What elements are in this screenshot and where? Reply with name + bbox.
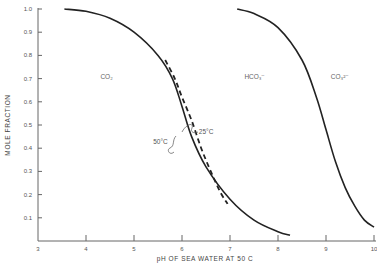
- x-axis-title: pH OF SEA WATER AT 50 C: [157, 255, 254, 263]
- x-ticks: 345678910: [36, 235, 377, 252]
- species-region-label: CO₂: [100, 73, 113, 80]
- x-tick-label: 9: [324, 246, 328, 252]
- species-region-label: CO₃²⁻: [331, 73, 350, 80]
- y-tick-label: 0.8: [24, 52, 33, 58]
- y-axis-title: MOLE FRACTION: [4, 94, 11, 155]
- y-tick-label: 0.3: [24, 168, 33, 174]
- y-tick-label: 0.5: [24, 122, 33, 128]
- x-tick-label: 5: [132, 246, 136, 252]
- y-tick-label: 0.7: [24, 76, 33, 82]
- x-tick-label: 7: [228, 246, 232, 252]
- series-group: [64, 9, 374, 235]
- species-region-label: HCO₃⁻: [244, 73, 265, 80]
- x-tick-label: 4: [84, 246, 88, 252]
- temperature-label: 50°C: [153, 138, 168, 145]
- temperature-label: 25°C: [199, 128, 214, 135]
- y-tick-label: 0.1: [24, 215, 33, 221]
- series-line-2: [237, 9, 374, 227]
- x-tick-label: 3: [36, 246, 40, 252]
- carbonate-speciation-chart: 345678910 0.10.20.30.40.50.60.70.80.91.0…: [0, 0, 377, 266]
- y-tick-label: 0.6: [24, 99, 33, 105]
- y-ticks: 0.10.20.30.40.50.60.70.80.91.0: [24, 6, 42, 221]
- x-tick-label: 10: [371, 246, 377, 252]
- y-tick-label: 1.0: [24, 6, 33, 12]
- leader-50c: [168, 136, 176, 153]
- x-tick-label: 6: [180, 246, 184, 252]
- y-tick-label: 0.9: [24, 29, 33, 35]
- y-tick-label: 0.4: [24, 145, 33, 151]
- x-tick-label: 8: [276, 246, 280, 252]
- y-tick-label: 0.2: [24, 192, 33, 198]
- series-line-0: [64, 9, 290, 235]
